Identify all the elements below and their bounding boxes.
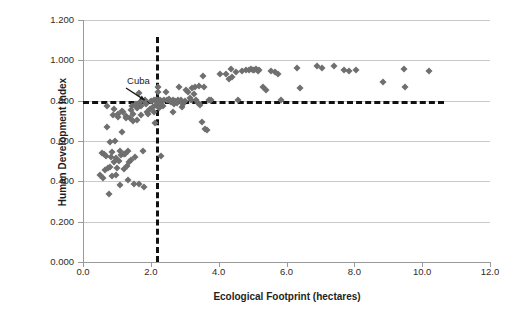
chart-figure: 0.0000.2000.4000.6000.8001.0001.200 0.02…: [0, 0, 513, 316]
data-point: [139, 147, 146, 154]
data-point: [425, 67, 432, 74]
y-tick-mark: [78, 141, 83, 142]
data-point: [293, 64, 300, 71]
gridline-y: [83, 181, 490, 182]
data-point: [402, 83, 409, 90]
x-tick-label: 0.0: [63, 266, 103, 277]
gridline-y: [83, 60, 490, 61]
x-tick-label: 10.0: [402, 266, 442, 277]
y-tick-mark: [78, 60, 83, 61]
y-tick-mark: [78, 222, 83, 223]
y-tick-mark: [78, 181, 83, 182]
x-tick-label: 4.0: [199, 266, 239, 277]
y-axis-title-holder: Human Development Index: [8, 20, 28, 263]
x-tick-label: 12.0: [470, 266, 510, 277]
data-point: [346, 67, 353, 74]
data-point: [274, 70, 281, 77]
y-axis-title: Human Development Index: [57, 42, 68, 242]
reference-line-footprint-threshold: [156, 37, 159, 262]
data-point: [117, 181, 124, 188]
data-point: [200, 73, 207, 80]
data-point: [330, 63, 337, 70]
x-tick-label: 6.0: [267, 266, 307, 277]
data-point: [352, 66, 359, 73]
data-point: [380, 78, 387, 85]
y-tick-mark: [78, 20, 83, 21]
data-point: [118, 128, 125, 135]
data-point: [141, 184, 148, 191]
gridline-y: [83, 222, 490, 223]
data-point: [136, 89, 143, 96]
x-axis-title: Ecological Footprint (hectares): [83, 291, 491, 302]
gridline-y: [83, 141, 490, 142]
data-point: [111, 137, 118, 144]
data-point: [170, 108, 177, 115]
data-point: [113, 164, 120, 171]
data-point: [319, 64, 326, 71]
x-tick-label: 2.0: [131, 266, 171, 277]
data-point: [400, 66, 407, 73]
data-point: [263, 86, 270, 93]
y-axis-line: [83, 20, 84, 263]
data-point: [155, 88, 162, 95]
data-point: [201, 83, 208, 90]
annotation-label-cuba: Cuba: [127, 75, 150, 86]
gridline-y: [83, 20, 490, 21]
data-point: [297, 84, 304, 91]
x-tick-label: 8.0: [334, 266, 374, 277]
data-point: [105, 191, 112, 198]
data-point: [104, 123, 111, 130]
